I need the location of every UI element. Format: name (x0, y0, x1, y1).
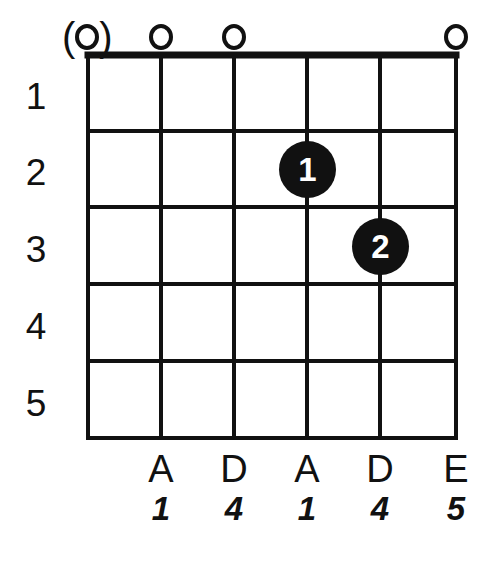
string-note-label-3: D (204, 450, 264, 488)
open-marker-left-paren: ( (62, 24, 75, 50)
string-degree-label-2: 1 (131, 492, 191, 525)
open-circle-icon (222, 24, 246, 50)
open-circle-icon (444, 24, 468, 50)
open-circle-icon (149, 24, 173, 50)
fret-number-2: 2 (14, 154, 58, 191)
fret-number-1: 1 (14, 78, 58, 115)
fret-number-3: 3 (14, 231, 58, 268)
string-note-label-4: A (277, 450, 337, 488)
string-degree-label-3: 4 (204, 492, 264, 525)
open-string-marker-2 (149, 24, 173, 50)
string-note-label-2: A (131, 450, 191, 488)
string-note-label-6: E (426, 450, 486, 488)
string-degree-label-4: 1 (277, 492, 337, 525)
open-string-marker-1-optional: () (62, 24, 113, 50)
string-degree-label-5: 4 (350, 492, 410, 525)
fret-number-4: 4 (14, 308, 58, 345)
chord-diagram: 12345 () 12 A1D4A1D4E5 (0, 0, 500, 561)
open-marker-right-paren: ) (99, 24, 112, 50)
string-degree-label-6: 5 (426, 492, 486, 525)
string-note-label-5: D (350, 450, 410, 488)
finger-dot-2: 2 (352, 218, 409, 275)
fret-number-5: 5 (14, 385, 58, 422)
open-circle-icon (75, 24, 99, 50)
open-string-marker-3 (222, 24, 246, 50)
finger-dot-1: 1 (279, 141, 336, 198)
open-string-marker-6 (444, 24, 468, 50)
